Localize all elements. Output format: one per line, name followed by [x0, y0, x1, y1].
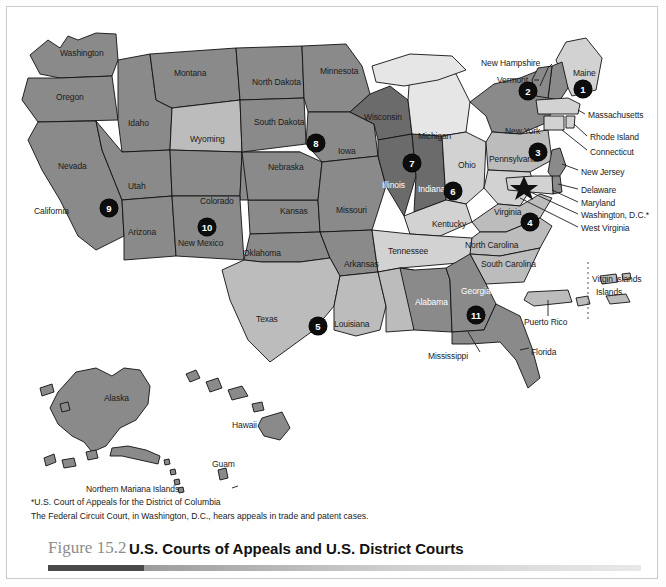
callout-label-connecticut: Connecticut: [590, 147, 634, 157]
state-label-louisiana: Louisiana: [334, 319, 370, 329]
state-label-guam: Guam: [212, 459, 235, 469]
circuit-badge-7[interactable]: 7: [403, 154, 421, 172]
state-label-missouri: Missouri: [336, 205, 367, 215]
circuit-badge-3[interactable]: 3: [529, 143, 547, 161]
state-connecticut: [544, 116, 564, 130]
footnote-line-1: *U.S. Court of Appeals for the District …: [31, 497, 221, 507]
callout-label-washington-dc: Washington, D.C.*: [581, 210, 649, 220]
state-wyoming: [170, 100, 242, 152]
state-illinois: [378, 134, 416, 216]
circuit-badge-10[interactable]: 10: [198, 218, 216, 236]
callout-label-massachusetts: Massachusetts: [588, 110, 643, 120]
circuit-badge-4[interactable]: 4: [521, 213, 539, 231]
state-label-north-dakota: North Dakota: [252, 77, 301, 87]
state-indiana: [412, 134, 446, 212]
circuit-badge-8[interactable]: 8: [307, 134, 325, 152]
state-massachusetts: [536, 98, 580, 114]
state-label-alaska: Alaska: [104, 393, 129, 403]
state-label-oklahoma: Oklahoma: [243, 248, 281, 258]
callout-label-new-jersey: New Jersey: [581, 167, 624, 177]
state-label-nebraska: Nebraska: [268, 162, 304, 172]
circuit-badge-5[interactable]: 5: [309, 317, 327, 335]
state-label-south-dakota: South Dakota: [254, 117, 304, 127]
state-label-kansas: Kansas: [280, 206, 308, 216]
callout-label-west-virginia: West Virginia: [581, 223, 629, 233]
state-texas: [222, 258, 340, 362]
state-label-south-carolina: South Carolina: [481, 259, 536, 269]
circuit-badge-1[interactable]: 1: [574, 80, 592, 98]
state-label-minnesota: Minnesota: [320, 66, 358, 76]
state-label-montana: Montana: [174, 68, 206, 78]
state-label-ohio: Ohio: [458, 160, 476, 170]
state-label-washington: Washington: [60, 48, 104, 58]
footnote-line-2: The Federal Circuit Court, in Washington…: [31, 511, 368, 521]
state-utah: [170, 150, 242, 196]
callout-label-rhode-island: Rhode Island: [590, 132, 639, 142]
callout-label-delaware: Delaware: [581, 185, 616, 195]
state-label-utah: Utah: [128, 181, 146, 191]
caption-rule-dark: [48, 565, 144, 571]
figure-page: Washington Montana North Dakota Minnesot…: [0, 0, 666, 587]
state-label-wisconsin: Wisconsin: [364, 112, 402, 122]
callout-label-maine: Maine: [573, 68, 596, 78]
state-label-arizona: Arizona: [128, 227, 156, 237]
state-label-michigan: Michigan: [418, 131, 451, 141]
state-label-kentucky: Kentucky: [432, 219, 466, 229]
state-label-texas: Texas: [256, 314, 278, 324]
state-missouri: [318, 156, 386, 232]
state-label-california: California: [34, 206, 69, 216]
state-north-dakota: [236, 46, 304, 100]
state-label-northern-mariana-islands: Northern Mariana Islands: [86, 484, 179, 494]
caption-rule-gradient: [144, 565, 641, 571]
circuit-badge-9[interactable]: 9: [100, 199, 118, 217]
state-label-illinois: Illinois: [382, 180, 405, 190]
circuit-badge-11[interactable]: 11: [467, 306, 485, 324]
figure-caption-bar: Figure 15.2 U.S. Courts of Appeals and U…: [7, 534, 657, 580]
state-label-florida: Florida: [531, 347, 556, 357]
state-label-new-mexico: New Mexico: [178, 238, 223, 248]
alaska-islands: [44, 450, 98, 468]
figure-title: U.S. Courts of Appeals and U.S. District…: [129, 540, 463, 557]
state-label-virgin-islands-line2: Islands: [596, 287, 622, 297]
state-rhode-island: [566, 116, 575, 128]
state-label-arkansas: Arkansas: [344, 259, 379, 269]
state-label-oregon: Oregon: [56, 92, 84, 102]
state-label-tennessee: Tennessee: [388, 246, 428, 256]
state-label-puerto-rico: Puerto Rico: [524, 317, 567, 327]
circuit-badge-2[interactable]: 2: [519, 82, 537, 100]
state-label-hawaii: Hawaii: [232, 420, 257, 430]
us-courts-map: Washington Montana North Dakota Minnesot…: [0, 0, 666, 500]
state-label-colorado: Colorado: [200, 196, 234, 206]
alaska-aleutians: [110, 446, 160, 464]
state-label-indiana: Indiana: [418, 184, 445, 194]
callout-label-maryland: Maryland: [581, 198, 615, 208]
state-label-mississippi: Mississippi: [428, 351, 468, 361]
state-label-new-york: New York: [505, 126, 540, 136]
guam-island: [218, 468, 228, 480]
state-label-north-carolina: North Carolina: [465, 240, 518, 250]
state-label-nevada: Nevada: [58, 161, 87, 171]
state-label-virginia: Virginia: [494, 207, 521, 217]
state-label-alabama: Alabama: [415, 297, 448, 307]
state-nebraska: [242, 152, 322, 200]
circuit-badge-6[interactable]: 6: [444, 182, 462, 200]
state-label-virgin-islands: Virgin Islands: [592, 274, 641, 284]
figure-number: Figure 15.2: [48, 538, 126, 558]
state-label-idaho: Idaho: [128, 118, 149, 128]
state-minnesota: [302, 44, 370, 112]
state-label-iowa: Iowa: [338, 146, 356, 156]
callout-label-new-hampshire: New Hampshire: [481, 58, 540, 68]
state-label-wyoming: Wyoming: [190, 134, 225, 144]
state-label-georgia: Georgia: [461, 286, 491, 296]
state-montana: [150, 48, 240, 108]
